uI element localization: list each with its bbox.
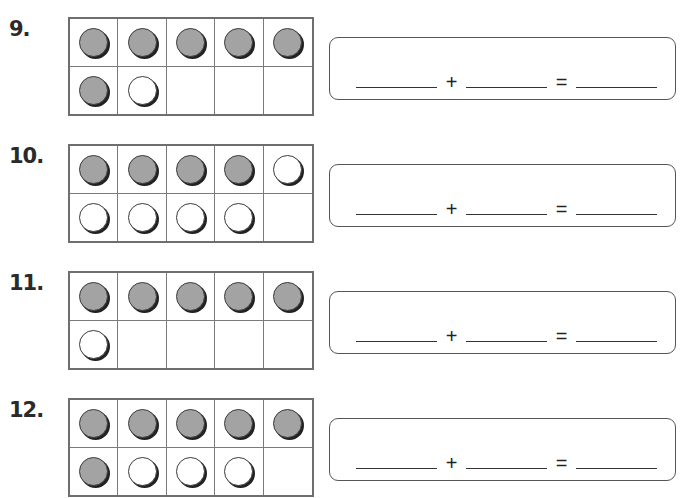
ten-frame-cell — [167, 67, 215, 115]
ten-frame-cell — [215, 321, 263, 369]
empty-counter-icon — [79, 203, 108, 232]
ten-frame-cell — [118, 321, 166, 369]
ten-frame-cell — [215, 400, 263, 448]
ten-frame-cell — [167, 273, 215, 321]
ten-frame-cell — [167, 194, 215, 242]
ten-frame-cell — [215, 146, 263, 194]
sum-blank[interactable] — [576, 450, 657, 469]
ten-frame-cell — [118, 146, 166, 194]
filled-counter-icon — [79, 409, 108, 438]
ten-frame-cell — [264, 273, 312, 321]
problem-number: 9. — [9, 17, 30, 41]
empty-counter-icon — [128, 203, 157, 232]
ten-frame-cell — [167, 400, 215, 448]
problem-number: 12. — [9, 398, 43, 422]
addend-1-blank[interactable] — [356, 196, 437, 215]
ten-frame-cell — [264, 146, 312, 194]
problem-9: 9. + = — [0, 17, 688, 142]
ten-frame-cell — [167, 146, 215, 194]
filled-counter-icon — [224, 155, 253, 184]
ten-frame-cell — [70, 194, 118, 242]
equals-sign: = — [547, 200, 576, 218]
addend-2-blank[interactable] — [466, 196, 547, 215]
sum-blank[interactable] — [576, 69, 657, 88]
equals-sign: = — [547, 454, 576, 472]
empty-counter-icon — [273, 155, 302, 184]
plus-sign: + — [437, 454, 466, 472]
filled-counter-icon — [176, 155, 205, 184]
addend-1-blank[interactable] — [356, 323, 437, 342]
ten-frame-cell — [118, 273, 166, 321]
ten-frame — [68, 144, 314, 243]
addend-2-blank[interactable] — [466, 69, 547, 88]
filled-counter-icon — [273, 28, 302, 57]
ten-frame-cell — [264, 448, 312, 496]
ten-frame-cell — [118, 194, 166, 242]
ten-frame-cell — [215, 19, 263, 67]
addend-2-blank[interactable] — [466, 323, 547, 342]
empty-counter-icon — [128, 76, 157, 105]
filled-counter-icon — [79, 28, 108, 57]
equals-sign: = — [547, 327, 576, 345]
ten-frame — [68, 398, 314, 497]
problem-number: 11. — [9, 271, 43, 295]
ten-frame-cell — [215, 448, 263, 496]
sum-blank[interactable] — [576, 323, 657, 342]
answer-box: + = — [329, 37, 676, 100]
plus-sign: + — [437, 327, 466, 345]
filled-counter-icon — [79, 155, 108, 184]
ten-frame-cell — [70, 448, 118, 496]
ten-frame — [68, 17, 314, 116]
addition-equation: + = — [356, 323, 657, 342]
ten-frame-cell — [264, 400, 312, 448]
ten-frame-cell — [118, 448, 166, 496]
addition-equation: + = — [356, 450, 657, 469]
ten-frame-cell — [167, 321, 215, 369]
filled-counter-icon — [128, 409, 157, 438]
ten-frame-cell — [215, 273, 263, 321]
answer-box: + = — [329, 164, 676, 227]
problem-11: 11. + = — [0, 271, 688, 396]
problem-10: 10. + = — [0, 144, 688, 269]
ten-frame-cell — [167, 448, 215, 496]
addition-equation: + = — [356, 196, 657, 215]
ten-frame-cell — [264, 19, 312, 67]
filled-counter-icon — [176, 409, 205, 438]
filled-counter-icon — [128, 155, 157, 184]
filled-counter-icon — [224, 282, 253, 311]
ten-frame-cell — [215, 67, 263, 115]
ten-frame-cell — [70, 67, 118, 115]
addition-equation: + = — [356, 69, 657, 88]
filled-counter-icon — [176, 28, 205, 57]
empty-counter-icon — [128, 457, 157, 486]
problem-number: 10. — [9, 144, 43, 168]
ten-frame-cell — [264, 67, 312, 115]
addend-2-blank[interactable] — [466, 450, 547, 469]
filled-counter-icon — [273, 282, 302, 311]
ten-frame-cell — [167, 19, 215, 67]
filled-counter-icon — [224, 409, 253, 438]
ten-frame-cell — [70, 321, 118, 369]
ten-frame-cell — [264, 321, 312, 369]
addend-1-blank[interactable] — [356, 450, 437, 469]
plus-sign: + — [437, 73, 466, 91]
empty-counter-icon — [224, 203, 253, 232]
filled-counter-icon — [128, 28, 157, 57]
ten-frame-cell — [70, 19, 118, 67]
ten-frame-cell — [70, 273, 118, 321]
empty-counter-icon — [176, 203, 205, 232]
equals-sign: = — [547, 73, 576, 91]
empty-counter-icon — [176, 457, 205, 486]
answer-box: + = — [329, 418, 676, 481]
ten-frame-cell — [118, 19, 166, 67]
ten-frame-cell — [215, 194, 263, 242]
filled-counter-icon — [79, 76, 108, 105]
ten-frame-cell — [118, 400, 166, 448]
empty-counter-icon — [79, 330, 108, 359]
sum-blank[interactable] — [576, 196, 657, 215]
filled-counter-icon — [79, 457, 108, 486]
plus-sign: + — [437, 200, 466, 218]
empty-counter-icon — [224, 457, 253, 486]
addend-1-blank[interactable] — [356, 69, 437, 88]
filled-counter-icon — [273, 409, 302, 438]
